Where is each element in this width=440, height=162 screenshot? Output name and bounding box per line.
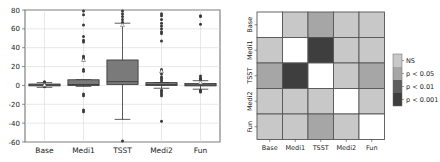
- heatmap-cell: [359, 114, 385, 140]
- heatmap-cell: [308, 12, 334, 38]
- legend-swatch: [393, 93, 402, 106]
- legend-label: p < 0.01: [406, 83, 434, 91]
- heatmap-cell: [283, 63, 309, 89]
- legend-swatch: [393, 80, 402, 93]
- heatmap-cell: [359, 89, 385, 115]
- heatmap-cell: [257, 63, 283, 89]
- legend-label: NS: [406, 57, 415, 65]
- heatmap-y-label: TSST: [246, 68, 254, 85]
- heatmap-cell: [308, 114, 334, 140]
- heatmap-cell: [283, 89, 309, 115]
- heatmap-y-label: Medi2: [246, 91, 254, 111]
- heatmap-y-label: Base: [246, 17, 254, 33]
- legend-swatch: [393, 67, 402, 80]
- heatmap-cell: [334, 114, 360, 140]
- heatmap-cell: [334, 63, 360, 89]
- heatmap-x-label: Base: [262, 144, 278, 152]
- legend-label: p < 0.05: [406, 70, 434, 78]
- heatmap-cell: [308, 38, 334, 64]
- heatmap-cell: [334, 12, 360, 38]
- heatmap-chart: BaseMedi1TSSTMedi2FunBaseMedi1TSSTMedi2F…: [0, 0, 440, 162]
- heatmap-cell: [283, 114, 309, 140]
- heatmap-cell: [257, 89, 283, 115]
- heatmap-cell: [359, 38, 385, 64]
- heatmap-x-label: Medi2: [336, 144, 356, 152]
- legend-swatch: [393, 54, 402, 67]
- heatmap-cell: [359, 63, 385, 89]
- legend-label: p < 0.001: [406, 96, 438, 104]
- heatmap-cell: [283, 38, 309, 64]
- heatmap-cell: [308, 89, 334, 115]
- heatmap-cell: [308, 63, 334, 89]
- heatmap-cell: [283, 12, 309, 38]
- heatmap-x-label: TSST: [312, 144, 329, 152]
- heatmap-x-label: Fun: [366, 144, 378, 152]
- heatmap-cell: [334, 38, 360, 64]
- heatmap-cell: [359, 12, 385, 38]
- heatmap-cell: [257, 114, 283, 140]
- heatmap-cell: [257, 38, 283, 64]
- heatmap-y-label: Fun: [246, 121, 254, 133]
- heatmap-x-label: Medi1: [285, 144, 305, 152]
- heatmap-y-label: Medi1: [246, 40, 254, 60]
- heatmap-cell: [257, 12, 283, 38]
- heatmap-cell: [334, 89, 360, 115]
